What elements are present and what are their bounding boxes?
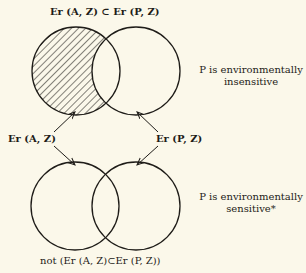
bottom-caption-line1: P is environmentally xyxy=(196,191,306,203)
arrow-a-to-top xyxy=(54,112,75,132)
top-subset-title: Er (A, Z) ⊂ Er (P, Z) xyxy=(50,6,160,18)
bottom-not-subset-title: not (Er (A, Z)⊂Er (P, Z)) xyxy=(40,255,161,267)
left-arrow-label: Er (A, Z) xyxy=(8,133,56,145)
top-caption-line1: P is environmentally xyxy=(196,64,306,76)
right-arrow-label: Er (P, Z) xyxy=(156,133,202,145)
top-caption-line2: insensitive xyxy=(196,76,306,88)
venn-diagram-figure: Er (A, Z) ⊂ Er (P, Z) P is environmental… xyxy=(0,0,306,273)
top-caption: P is environmentally insensitive xyxy=(196,64,306,88)
arrow-a-to-bottom xyxy=(54,146,75,165)
bottom-caption: P is environmentally sensitive* xyxy=(196,191,306,215)
bottom-set-a-circle xyxy=(31,162,119,250)
arrow-p-to-bottom xyxy=(137,146,158,165)
arrow-p-to-top xyxy=(137,112,158,132)
bottom-caption-line2: sensitive* xyxy=(196,203,306,215)
hatched-region-a-minus-p xyxy=(30,26,122,118)
bottom-set-p-circle xyxy=(92,162,180,250)
